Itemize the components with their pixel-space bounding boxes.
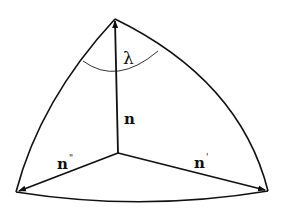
vector-n bbox=[115, 21, 118, 153]
arc-bottom-edge bbox=[16, 191, 268, 202]
spherical-triangle-diagram: λ n n" n' bbox=[0, 0, 283, 212]
diagram-graphic bbox=[0, 0, 283, 212]
label-n-double-prime: n" bbox=[57, 157, 73, 172]
label-n-prime: n' bbox=[194, 156, 208, 171]
double-prime-mark: " bbox=[69, 153, 73, 163]
label-n-double-prime-base: n bbox=[57, 155, 68, 173]
label-lambda: λ bbox=[123, 50, 134, 67]
vector-n-prime bbox=[118, 153, 265, 190]
label-n-prime-base: n bbox=[194, 154, 205, 172]
arc-right-edge bbox=[115, 19, 268, 191]
label-n: n bbox=[124, 112, 135, 127]
angle-arc-lambda bbox=[83, 51, 158, 71]
